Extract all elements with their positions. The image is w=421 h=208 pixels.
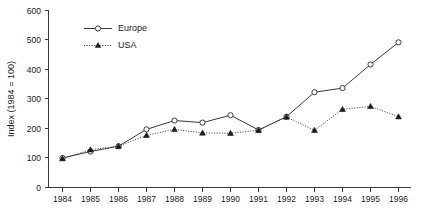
data-point-marker-circle: [228, 113, 233, 118]
data-point-marker-triangle: [144, 132, 150, 137]
legend-label-usa: USA: [118, 40, 137, 50]
legend-item-usa: USA: [84, 40, 137, 50]
x-tick-label: 1990: [221, 194, 240, 204]
x-axis-tick-labels: 1984 1985 1986 1987 1988 1989 1990 1991 …: [53, 194, 408, 204]
x-tick-label: 1994: [333, 194, 352, 204]
data-point-marker-circle: [200, 120, 205, 125]
x-tick-label: 1988: [165, 194, 184, 204]
data-point-marker-circle: [368, 62, 373, 67]
series-usa: [60, 103, 402, 160]
data-point-marker-circle: [144, 127, 149, 132]
y-tick-label: 100: [27, 153, 41, 163]
y-axis-ticks: [45, 11, 49, 188]
series-line-europe: [63, 42, 399, 158]
series-europe: [60, 40, 401, 161]
data-point-marker-circle: [172, 118, 177, 123]
x-tick-label: 1986: [109, 194, 128, 204]
chart-legend: Europe USA: [84, 23, 147, 50]
y-tick-label: 500: [27, 35, 41, 45]
data-point-marker-circle: [396, 40, 401, 45]
y-tick-label: 0: [36, 183, 41, 193]
chart-canvas: 600 500 400 300 200 100 0 Index (1984 = …: [0, 0, 421, 208]
line-chart: 600 500 400 300 200 100 0 Index (1984 = …: [0, 0, 421, 208]
data-point-marker-triangle: [172, 126, 178, 131]
x-tick-label: 1987: [137, 194, 156, 204]
y-tick-label: 200: [27, 124, 41, 134]
y-axis-tick-labels: 600 500 400 300 200 100 0: [27, 6, 41, 193]
x-tick-label: 1985: [81, 194, 100, 204]
x-tick-label: 1995: [361, 194, 380, 204]
y-axis-title: Index (1984 = 100): [6, 61, 16, 137]
data-point-marker-circle: [312, 90, 317, 95]
data-point-marker-triangle: [396, 114, 402, 119]
data-point-marker-circle: [340, 85, 345, 90]
x-tick-label: 1989: [193, 194, 212, 204]
legend-item-europe: Europe: [84, 23, 147, 33]
legend-label-europe: Europe: [118, 23, 147, 33]
data-point-marker-triangle: [368, 103, 374, 108]
open-circle-icon: [95, 26, 100, 31]
x-tick-label: 1992: [277, 194, 296, 204]
x-tick-label: 1991: [249, 194, 268, 204]
y-tick-label: 300: [27, 94, 41, 104]
x-axis-ticks: [63, 188, 399, 192]
y-tick-label: 600: [27, 6, 41, 16]
x-tick-label: 1993: [305, 194, 324, 204]
x-tick-label: 1984: [53, 194, 72, 204]
y-tick-label: 400: [27, 65, 41, 75]
data-series-layer: [60, 40, 402, 161]
x-tick-label: 1996: [389, 194, 408, 204]
